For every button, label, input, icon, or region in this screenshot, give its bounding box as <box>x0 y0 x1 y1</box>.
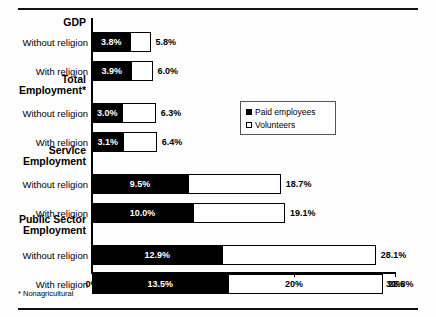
stacked-bar: 13.5% <box>92 274 383 294</box>
bar-segment-volunteers <box>123 132 156 152</box>
bar-segment-volunteers <box>188 174 281 194</box>
bar-total-label: 6.4% <box>162 137 183 147</box>
legend-item-volunteers: Volunteers <box>246 118 330 131</box>
bar-segment-value-label: 3.9% <box>101 66 122 76</box>
group-label-total-employment: Total Employment* <box>0 74 86 96</box>
bar-segment-volunteers <box>222 245 376 265</box>
x-axis-tick-mark <box>395 272 396 277</box>
legend-item-volunteers-label: Volunteers <box>255 120 295 130</box>
row-label: Without religion <box>0 179 88 190</box>
group-label-service-line2: Employment <box>0 156 86 167</box>
group-label-gdp-text: GDP <box>63 16 86 28</box>
bar-segment-paid-employees: 3.1% <box>92 132 123 152</box>
x-axis-tick-label: 10% <box>184 279 202 289</box>
stacked-bar: 3.8% <box>92 32 151 52</box>
row-label: Without religion <box>0 37 88 48</box>
bottom-divider-rule <box>18 308 418 310</box>
bar-segment-value-label: 3.0% <box>97 108 118 118</box>
stacked-bar: 9.5% <box>92 174 281 194</box>
group-label-public-line2: Employment <box>0 225 86 236</box>
x-axis-tick-label: 0% <box>85 279 98 289</box>
bar-segment-volunteers <box>130 32 150 52</box>
bar-segment-paid-employees: 3.9% <box>92 61 131 81</box>
bar-segment-volunteers <box>122 103 155 123</box>
stacked-bar: 12.9% <box>92 245 376 265</box>
x-axis-tick-mark <box>294 272 295 277</box>
x-axis-tick-label: 20% <box>285 279 303 289</box>
footnote: * Nonagricultural <box>18 289 73 298</box>
bar-segment-value-label: 9.5% <box>130 179 151 189</box>
x-axis-tick-mark <box>193 272 194 277</box>
row-label: With religion <box>0 208 88 219</box>
bar-total-label: 18.7% <box>286 179 312 189</box>
row-label: With religion <box>0 66 88 77</box>
chart-legend: Paid employees Volunteers <box>240 101 336 135</box>
group-label-service-employment: Service Employment <box>0 145 86 167</box>
filled-square-icon <box>246 109 252 115</box>
stacked-bar: 10.0% <box>92 203 285 223</box>
chart-figure: GDP Total Employment* Service Employment… <box>0 0 436 317</box>
group-label-gdp: GDP <box>0 17 86 28</box>
legend-item-paid-label: Paid employees <box>255 107 315 117</box>
bar-total-label: 19.1% <box>290 208 316 218</box>
hollow-square-icon <box>246 122 252 128</box>
stacked-bar: 3.0% <box>92 103 156 123</box>
bar-total-label: 6.0% <box>158 66 179 76</box>
legend-item-paid-employees: Paid employees <box>246 105 330 118</box>
bar-segment-paid-employees: 9.5% <box>92 174 188 194</box>
bar-segment-value-label: 13.5% <box>147 279 173 289</box>
bar-total-label: 6.3% <box>161 108 182 118</box>
bar-segment-paid-employees: 13.5% <box>92 274 228 294</box>
bar-total-label: 28.1% <box>381 250 407 260</box>
row-label: Without religion <box>0 250 88 261</box>
bar-segment-value-label: 3.8% <box>101 37 122 47</box>
bar-segment-paid-employees: 12.9% <box>92 245 222 265</box>
bar-segment-volunteers <box>131 61 152 81</box>
row-label: With religion <box>0 137 88 148</box>
plot-area: GDP Total Employment* Service Employment… <box>0 18 436 280</box>
row-label: Without religion <box>0 108 88 119</box>
bar-segment-paid-employees: 10.0% <box>92 203 193 223</box>
bar-segment-volunteers <box>193 203 285 223</box>
bar-segment-paid-employees: 3.0% <box>92 103 122 123</box>
bar-segment-volunteers <box>228 274 383 294</box>
stacked-bar: 3.1% <box>92 132 157 152</box>
bar-segment-value-label: 12.9% <box>144 250 170 260</box>
stacked-bar: 3.9% <box>92 61 153 81</box>
bar-total-label: 5.8% <box>156 37 177 47</box>
group-label-total-line2: Employment* <box>0 85 86 96</box>
x-axis-tick-label: 30% <box>386 279 404 289</box>
top-divider-rule <box>18 8 418 10</box>
x-axis-tick-mark <box>92 272 93 277</box>
bar-segment-value-label: 10.0% <box>130 208 156 218</box>
bar-segment-value-label: 3.1% <box>97 137 118 147</box>
bar-segment-paid-employees: 3.8% <box>92 32 130 52</box>
